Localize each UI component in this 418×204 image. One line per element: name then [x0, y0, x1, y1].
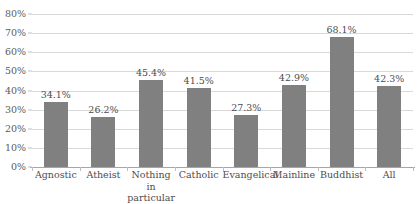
bar[interactable] [377, 86, 401, 167]
x-axis-category-label: Evangelical [223, 169, 271, 181]
y-axis-tick-label: 50% [0, 67, 26, 77]
bar-slot: 42.9% [270, 14, 318, 167]
x-axis-category-label: Catholic [175, 169, 223, 181]
x-axis-tick-mark [270, 167, 271, 171]
y-axis-tick-mark [28, 128, 32, 129]
bar-value-label: 41.5% [184, 76, 214, 86]
y-axis-tick-label: 70% [0, 28, 26, 38]
y-axis-tick-label: 60% [0, 48, 26, 58]
bar[interactable] [282, 85, 306, 167]
x-axis-tick-mark [365, 167, 366, 171]
bar-series: 34.1%26.2%45.4%41.5%27.3%42.9%68.1%42.3% [32, 14, 413, 167]
y-axis-tick-label: 80% [0, 9, 26, 19]
bar[interactable] [139, 80, 163, 167]
bar[interactable] [234, 115, 258, 167]
bar-chart: 80%70%60%50%40%30%20%10%0% 34.1%26.2%45.… [0, 0, 418, 204]
x-axis-tick-mark [223, 167, 224, 171]
y-axis-tick-label: 30% [0, 105, 26, 115]
bar-value-label: 68.1% [326, 25, 356, 35]
y-axis-tick-label: 20% [0, 124, 26, 134]
y-axis-tick-mark [28, 14, 32, 15]
x-axis-tick-mark [318, 167, 319, 171]
chart-title-cropped [0, 0, 418, 3]
y-axis: 80%70%60%50%40%30%20%10%0% [0, 14, 26, 167]
bar[interactable] [44, 102, 68, 167]
bar-value-label: 42.3% [374, 74, 404, 84]
x-axis-tick-mark [127, 167, 128, 171]
y-axis-tick-mark [28, 90, 32, 91]
x-axis-tick-mark [32, 167, 33, 171]
bar[interactable] [91, 117, 115, 167]
bar-slot: 68.1% [318, 14, 366, 167]
y-axis-tick-mark [28, 33, 32, 34]
y-axis-tick-label: 0% [0, 162, 26, 172]
y-axis-tick-label: 40% [0, 86, 26, 96]
bar-slot: 34.1% [32, 14, 80, 167]
x-axis-category-label: Buddhist [318, 169, 366, 181]
x-axis-category-label: Nothing in particular [127, 169, 175, 204]
bar-slot: 41.5% [175, 14, 223, 167]
bar-slot: 42.3% [365, 14, 413, 167]
x-axis-tick-mark [175, 167, 176, 171]
bar-slot: 27.3% [223, 14, 271, 167]
bar-value-label: 27.3% [231, 103, 261, 113]
bar-slot: 45.4% [127, 14, 175, 167]
y-axis-tick-label: 10% [0, 143, 26, 153]
bar-value-label: 26.2% [88, 105, 118, 115]
y-axis-tick-mark [28, 52, 32, 53]
bar[interactable] [187, 88, 211, 167]
y-axis-tick-mark [28, 109, 32, 110]
bar[interactable] [330, 37, 354, 167]
x-axis-category-label: All [365, 169, 413, 181]
bar-value-label: 42.9% [279, 73, 309, 83]
x-axis-tick-mark [80, 167, 81, 171]
bar-value-label: 34.1% [41, 90, 71, 100]
x-axis-category-label: Atheist [80, 169, 128, 181]
x-axis-labels: AgnosticAtheistNothing in particularCath… [32, 169, 413, 203]
x-axis-category-label: Mainline [270, 169, 318, 181]
y-axis-tick-mark [28, 147, 32, 148]
bar-slot: 26.2% [80, 14, 128, 167]
x-axis-category-label: Agnostic [32, 169, 80, 181]
bar-value-label: 45.4% [136, 68, 166, 78]
y-axis-tick-mark [28, 71, 32, 72]
x-axis-tick-mark [413, 167, 414, 171]
